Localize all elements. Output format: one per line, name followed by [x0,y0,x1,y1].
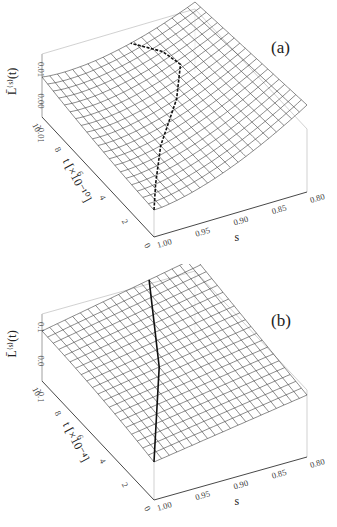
mesh-line [132,84,285,184]
mesh-line [134,42,246,157]
z-tick-label: 0.01 [36,62,46,77]
mesh-line [126,46,238,163]
z-tick-label: -0.01 [36,125,46,143]
mesh-line [73,316,185,448]
t-tick-label: 0 [142,241,153,249]
panel-a: 1.000.950.900.850.8002468100.010.00-0.01… [0,0,337,263]
s-tick-label: 0.80 [309,191,326,205]
mesh-line [137,90,290,192]
mesh-line [42,264,195,331]
s-tick-label: 0.80 [309,456,326,470]
t-tick-label: 4 [97,193,108,202]
t-tick-label: 0 [142,504,153,512]
mesh-line [187,8,299,113]
mesh-line [154,105,307,210]
mesh-line [180,13,292,119]
mesh-line [187,264,299,398]
t-tick-label: 4 [97,457,108,466]
t-tick-label: 8 [53,145,64,153]
mesh-line [80,313,192,446]
mesh-line [88,64,200,188]
mesh-line [111,54,223,174]
mesh-line [50,327,162,458]
t-tick-label: 8 [53,409,64,417]
panel-label-a: (a) [271,38,290,58]
s-tick-label: 0.85 [270,467,287,481]
overlay-curve [131,43,181,210]
s-tick-label: 0.95 [194,225,211,239]
s-axis-label: s [235,230,240,244]
mesh-line [143,95,296,198]
t-axis-label: t [×10⁻¹⁰] [60,156,95,205]
mesh-line [65,320,177,452]
t-axis-label: t [×10⁻⁴] [60,419,93,464]
s-tick-label: 1.00 [156,236,173,250]
surface-plot-b: 1.000.950.900.850.8002468100.10.0-0.1st … [0,264,337,527]
z-tick-label: 0.00 [36,94,46,109]
mesh-line [180,265,292,401]
t-tick-label: 2 [120,480,131,488]
z-tick-label: 0.0 [36,356,46,367]
box-edge [42,9,195,54]
panel-label-b: (b) [271,311,291,331]
mesh-line [42,2,195,77]
mesh-line [119,50,231,168]
surface-mesh [42,264,307,462]
mesh-line [98,54,251,146]
panel-b: 1.000.950.900.850.8002468100.10.0-0.1st … [0,264,337,527]
s-axis-line [154,457,307,500]
mesh-line [115,69,268,165]
z-axis-label: L̄⁽ˢ⁾(t) [5,330,19,357]
s-tick-label: 1.00 [156,499,173,513]
s-tick-label: 0.85 [270,202,287,216]
mesh-line [81,38,234,125]
mesh-line [195,2,307,105]
s-tick-label: 0.95 [194,488,211,502]
t-axis-line [42,117,154,237]
z-axis-label: L̄⁽ˢ⁾(t) [5,68,19,95]
t-tick-label: 2 [120,217,131,225]
s-tick-label: 0.90 [232,214,249,228]
s-tick-label: 0.90 [232,478,249,492]
mesh-line [50,76,162,208]
z-tick-label: 0.1 [36,322,46,333]
mesh-line [42,331,154,462]
t-axis-line [42,381,154,500]
mesh-line [42,77,154,210]
s-axis-line [154,192,307,237]
mesh-line [109,64,262,159]
mesh-line [53,12,206,91]
s-axis-label: s [235,494,240,508]
z-tick-label: -0.1 [36,389,46,402]
mesh-line [96,61,208,184]
